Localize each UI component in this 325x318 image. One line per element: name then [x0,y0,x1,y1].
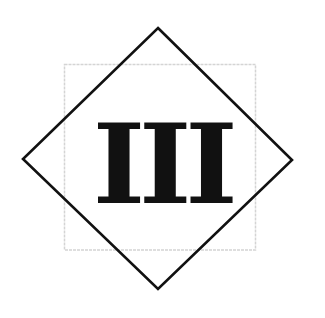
diagram-svg [0,0,325,318]
diagram-canvas [0,0,325,318]
